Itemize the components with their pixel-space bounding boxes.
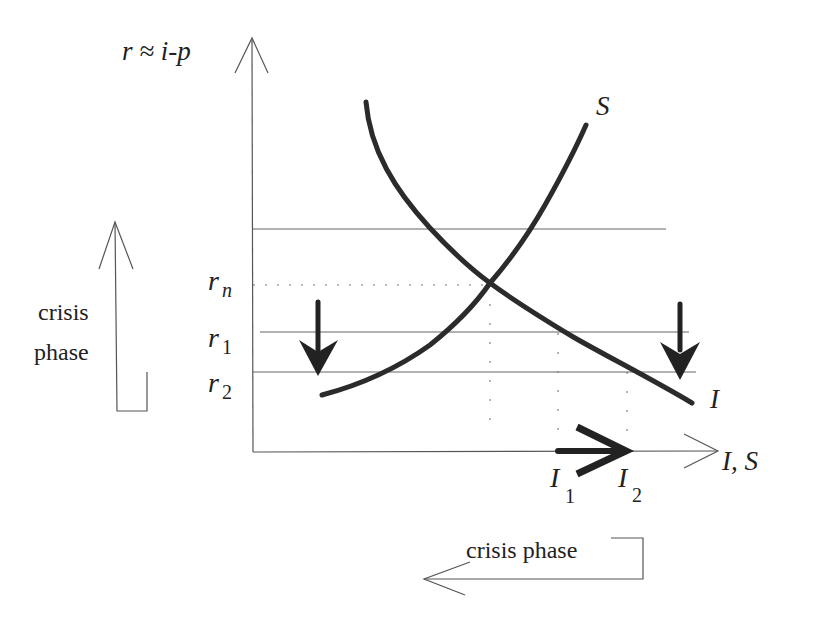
down-arrow-left-icon — [299, 302, 338, 376]
crisis-phase-horizontal-text: crisis phase — [466, 537, 577, 563]
svg-text:r: r — [208, 322, 219, 353]
svg-text:1: 1 — [222, 336, 232, 358]
svg-text:I: I — [617, 462, 629, 493]
svg-text:n: n — [222, 279, 232, 301]
svg-text:1: 1 — [565, 485, 575, 507]
savings-curve-label: S — [596, 91, 610, 121]
right-arrow-shift-icon — [558, 427, 626, 474]
savings-curve — [322, 125, 586, 395]
svg-text:2: 2 — [632, 484, 642, 506]
r1-label: r 1 — [208, 322, 232, 358]
x-axis — [253, 434, 718, 468]
investment-curve-label: I — [709, 384, 721, 414]
crisis-phase-vertical-line1: crisis — [38, 299, 89, 325]
rn-label: r n — [208, 265, 232, 301]
is-diagram: r ≈ i-p I, S S I r n r 1 r 2 I 1 I 2 cri… — [0, 0, 817, 624]
crisis-phase-vertical-arrow-icon — [99, 222, 147, 411]
x-axis-label: I, S — [721, 446, 758, 476]
svg-text:r: r — [208, 367, 219, 398]
y-axis — [235, 38, 268, 452]
i2-label: I 2 — [617, 462, 642, 506]
y-axis-label: r ≈ i-p — [122, 36, 191, 66]
svg-text:I: I — [549, 462, 561, 493]
crisis-phase-vertical-line2: phase — [34, 339, 89, 365]
svg-text:2: 2 — [222, 381, 232, 403]
svg-text:r: r — [208, 265, 219, 296]
r2-label: r 2 — [208, 367, 232, 403]
down-arrow-right-icon — [660, 304, 700, 380]
i1-label: I 1 — [549, 462, 575, 507]
